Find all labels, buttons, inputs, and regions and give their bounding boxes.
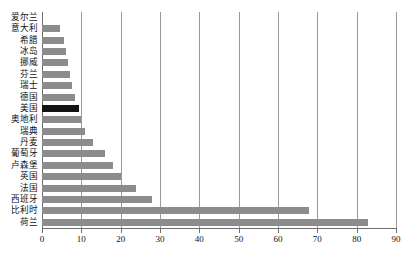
bar-意大利 [42,25,60,32]
bar-德国 [42,94,75,101]
bar-row: 葡萄牙 [42,148,396,159]
category-label: 芬兰 [0,69,38,80]
bar-row: 德国 [42,92,396,103]
bar-挪威 [42,59,68,66]
bar-row: 法国 [42,183,396,194]
category-label-text: 意大利 [0,23,38,34]
category-label: 荷兰 [0,217,38,228]
bar-row: 卢森堡 [42,160,396,171]
category-label: 法国 [0,183,38,194]
bar-row: 爱尔兰 [42,12,396,23]
category-label: 爱尔兰 [0,12,38,23]
category-label: 希腊 [0,35,38,46]
x-tick-label-40: 40 [186,234,212,244]
category-label-text: 挪威 [0,57,38,68]
category-label-text: 德国 [0,92,38,103]
category-label-text: 比利时 [0,205,38,216]
bar-row: 冰岛 [42,46,396,57]
x-tick-30 [160,229,161,233]
bar-英国 [42,173,121,180]
x-tick-40 [199,229,200,233]
x-tick-label-20: 20 [108,234,134,244]
category-label-text: 卢森堡 [0,160,38,171]
bar-row: 比利时 [42,205,396,216]
x-tick-label-10: 10 [68,234,94,244]
bar-丹麦 [42,139,93,146]
bar-row: 挪威 [42,57,396,68]
bar-row: 丹麦 [42,137,396,148]
category-label-text: 爱尔兰 [0,12,38,23]
bar-row: 荷兰 [42,217,396,228]
x-tick-label-0: 0 [29,234,55,244]
x-tick-70 [317,229,318,233]
bar-row: 芬兰 [42,69,396,80]
category-label-text: 美国 [0,103,38,114]
x-tick-label-50: 50 [226,234,252,244]
bar-比利时 [42,207,309,214]
plot-area: 爱尔兰意大利希腊冰岛挪威芬兰瑞士德国美国奥地利瑞典丹麦葡萄牙卢森堡英国法国西班牙… [42,12,396,229]
category-label-text: 西班牙 [0,194,38,205]
bar-西班牙 [42,196,152,203]
bar-芬兰 [42,71,70,78]
category-label: 卢森堡 [0,160,38,171]
bar-卢森堡 [42,162,113,169]
bar-row: 希腊 [42,35,396,46]
category-label: 意大利 [0,23,38,34]
category-label: 德国 [0,92,38,103]
category-label: 奥地利 [0,114,38,125]
category-label-text: 丹麦 [0,137,38,148]
category-label: 瑞典 [0,126,38,137]
x-tick-label-60: 60 [265,234,291,244]
category-label-text: 荷兰 [0,217,38,228]
bar-row: 西班牙 [42,194,396,205]
x-tick-label-30: 30 [147,234,173,244]
category-label: 丹麦 [0,137,38,148]
x-tick-90 [396,229,397,233]
x-tick-80 [357,229,358,233]
bar-瑞士 [42,82,72,89]
bar-row: 英国 [42,171,396,182]
x-tick-50 [239,229,240,233]
category-label: 西班牙 [0,194,38,205]
gridline-90 [396,12,397,229]
bar-瑞典 [42,128,85,135]
category-label-text: 英国 [0,171,38,182]
x-tick-label-80: 80 [344,234,370,244]
x-tick-20 [121,229,122,233]
x-tick-0 [42,229,43,233]
category-label: 英国 [0,171,38,182]
category-label-text: 葡萄牙 [0,148,38,159]
x-tick-10 [81,229,82,233]
x-tick-label-70: 70 [304,234,330,244]
bar-row: 瑞典 [42,126,396,137]
bar-row: 奥地利 [42,114,396,125]
category-label: 瑞士 [0,80,38,91]
bar-法国 [42,185,136,192]
category-label-text: 瑞士 [0,80,38,91]
bar-美国 [42,105,79,112]
category-label-text: 奥地利 [0,114,38,125]
category-label-text: 冰岛 [0,46,38,57]
bar-chart: 爱尔兰意大利希腊冰岛挪威芬兰瑞士德国美国奥地利瑞典丹麦葡萄牙卢森堡英国法国西班牙… [0,0,408,257]
category-label-text: 芬兰 [0,69,38,80]
category-label: 冰岛 [0,46,38,57]
category-label-text: 法国 [0,183,38,194]
category-label: 美国 [0,103,38,114]
x-axis-line [42,228,397,229]
x-tick-label-90: 90 [383,234,408,244]
category-label: 挪威 [0,57,38,68]
bar-row: 意大利 [42,23,396,34]
chart-title [0,0,408,4]
category-label-text: 希腊 [0,35,38,46]
x-tick-60 [278,229,279,233]
bar-希腊 [42,37,64,44]
bar-葡萄牙 [42,150,105,157]
bar-row: 瑞士 [42,80,396,91]
bar-奥地利 [42,116,81,123]
category-label: 葡萄牙 [0,148,38,159]
category-label-text: 瑞典 [0,126,38,137]
bar-荷兰 [42,219,368,226]
category-label: 比利时 [0,205,38,216]
bar-冰岛 [42,48,66,55]
bar-row: 美国 [42,103,396,114]
